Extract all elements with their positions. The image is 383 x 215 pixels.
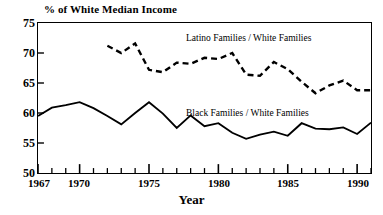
- chart-plot-svg: [38, 23, 371, 173]
- x-tick-label: 1990: [347, 177, 369, 189]
- plot-area: [37, 22, 372, 174]
- x-tick-label: 1975: [138, 177, 160, 189]
- x-tick-label: 1985: [277, 177, 299, 189]
- series-annotation-black: Black Families / White Families: [186, 108, 309, 118]
- y-tick-label: 70: [1, 47, 35, 59]
- x-tick-label: 1980: [208, 177, 230, 189]
- series-line-latino: [107, 43, 371, 93]
- y-tick-label: 60: [1, 107, 35, 119]
- x-axis-ticks: [38, 164, 371, 173]
- x-tick-label: 1970: [68, 177, 90, 189]
- x-axis-title: Year: [0, 192, 383, 208]
- y-axis-ticks: [38, 53, 44, 143]
- y-tick-label: 55: [1, 137, 35, 149]
- series-annotation-latino: Latino Families / White Families: [186, 33, 311, 43]
- y-tick-label: 75: [1, 17, 35, 29]
- y-axis-title: % of White Median Income: [44, 3, 177, 15]
- chart-figure: % of White Median Income 75 70 65 60 55 …: [0, 0, 383, 215]
- x-tick-label: 1967: [28, 177, 50, 189]
- y-tick-label: 65: [1, 77, 35, 89]
